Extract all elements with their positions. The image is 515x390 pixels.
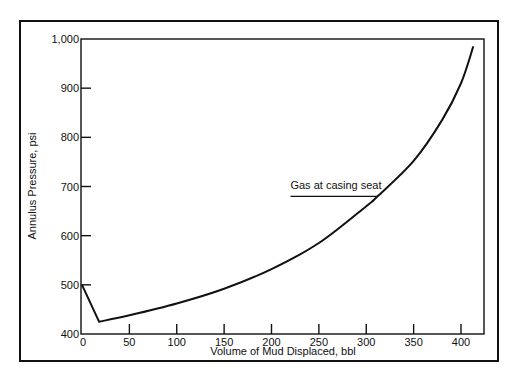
y-tick-label: 1,000 (51, 33, 79, 45)
y-tick-label: 700 (61, 181, 79, 193)
x-axis-title: Volume of Mud Displaced, bbl (210, 345, 356, 357)
x-tick-label: 300 (357, 336, 375, 348)
y-tick-label: 400 (61, 328, 79, 340)
x-tick-label: 100 (168, 336, 186, 348)
annulus-pressure-line (82, 46, 473, 321)
outer-frame (20, 21, 498, 361)
chart: 4005006007008009001,000 0501001502002503… (0, 0, 515, 390)
plot-area (81, 39, 484, 334)
x-tick-label: 350 (404, 336, 422, 348)
y-axis-title: Annulus Pressure, psi (26, 133, 38, 240)
x-tick-label: 50 (123, 336, 135, 348)
x-tick-label: 400 (452, 336, 470, 348)
y-axis-ticks: 4005006007008009001,000 (51, 33, 91, 340)
y-tick-label: 500 (61, 279, 79, 291)
y-tick-label: 900 (61, 82, 79, 94)
x-tick-label: 0 (80, 336, 86, 348)
y-tick-label: 600 (61, 230, 79, 242)
annotation-gas-at-casing-seat: Gas at casing seat (290, 179, 381, 191)
y-tick-label: 800 (61, 131, 79, 143)
